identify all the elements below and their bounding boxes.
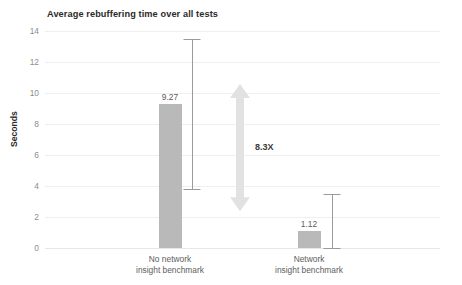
error-bar-stem	[332, 194, 333, 248]
chart-container: Average rebuffering time over all tests …	[0, 0, 462, 285]
x-axis-category-label: Network insight benchmark	[275, 254, 343, 276]
bar-value-label: 9.27	[162, 92, 178, 102]
bar	[298, 231, 321, 248]
plot-area: 9.271.12 8.3X	[45, 31, 440, 248]
error-bar-cap-upper	[184, 39, 201, 40]
y-axis-tick-label: 8	[9, 119, 39, 129]
gridline	[45, 31, 440, 32]
error-bar-cap-lower	[184, 189, 201, 190]
error-bar-stem	[192, 39, 193, 189]
y-axis-tick-label: 2	[9, 212, 39, 222]
y-axis-tick-label: 14	[9, 26, 39, 36]
bar-value-label: 1.12	[301, 219, 317, 229]
y-axis-tick-label: 6	[9, 150, 39, 160]
gridline	[45, 217, 440, 218]
bar	[159, 104, 182, 248]
y-axis-tick-label: 0	[9, 243, 39, 253]
annotation-label: 8.3X	[255, 142, 274, 152]
y-axis-tick-label: 12	[9, 57, 39, 67]
error-bar-cap-upper	[324, 194, 341, 195]
chart-title: Average rebuffering time over all tests	[47, 9, 218, 19]
x-axis-category-label: No network insight benchmark	[136, 254, 204, 276]
gridline	[45, 248, 440, 249]
y-axis-tick-label: 10	[9, 88, 39, 98]
error-bar-cap-lower	[324, 248, 341, 249]
gridline	[45, 62, 440, 63]
y-axis-tick-label: 4	[9, 181, 39, 191]
